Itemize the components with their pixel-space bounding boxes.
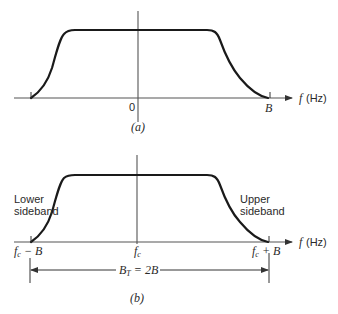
panel-b-spectrum-curve xyxy=(31,175,268,242)
panel-a-x-axis-label: f (Hz) xyxy=(299,91,327,105)
panel-a-bandwidth-label: B xyxy=(265,101,273,115)
panel-a: 0 B f (Hz) (a) xyxy=(14,11,327,134)
svg-text:Upper: Upper xyxy=(240,193,270,205)
panel-a-spectrum-curve xyxy=(31,30,268,98)
panel-b: Lower sideband Upper sideband f (Hz) fc … xyxy=(14,155,327,305)
svg-text:f: f xyxy=(299,91,304,105)
svg-text:sideband: sideband xyxy=(240,205,285,217)
panel-a-origin-label: 0 xyxy=(129,101,135,113)
spectrum-diagram: 0 B f (Hz) (a) Lower sideband Upper side… xyxy=(0,0,338,314)
lower-edge-label: fc − B xyxy=(14,244,43,259)
svg-text:Lower: Lower xyxy=(14,193,44,205)
panel-b-caption: (b) xyxy=(130,291,144,305)
svg-text:f: f xyxy=(299,235,304,249)
svg-text:(Hz): (Hz) xyxy=(306,236,327,248)
upper-edge-label: fc + B xyxy=(252,244,281,259)
upper-sideband-label: Upper sideband xyxy=(240,193,285,217)
panel-b-x-axis-label: f (Hz) xyxy=(299,235,327,249)
svg-text:sideband: sideband xyxy=(14,205,59,217)
panel-a-caption: (a) xyxy=(131,120,145,134)
lower-sideband-label: Lower sideband xyxy=(14,193,59,217)
carrier-frequency-label: fc xyxy=(134,244,141,259)
transmission-bandwidth-label: BT = 2B xyxy=(119,263,159,278)
svg-text:(Hz): (Hz) xyxy=(306,92,327,104)
